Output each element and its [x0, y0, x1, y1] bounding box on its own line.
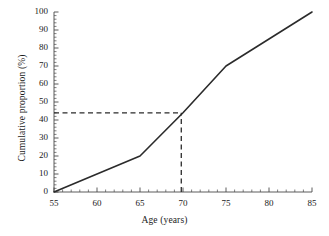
x-tick-label-70: 70 — [171, 198, 195, 208]
x-tick-label-75: 75 — [214, 198, 238, 208]
x-axis-major-ticks — [54, 188, 312, 193]
y-tick-label-100: 100 — [24, 6, 48, 16]
y-axis-title: Cumulative proportion (%) — [17, 28, 27, 188]
x-tick-label-60: 60 — [85, 198, 109, 208]
y-tick-label-90: 90 — [24, 24, 48, 34]
x-tick-label-55: 55 — [42, 198, 66, 208]
y-tick-label-10: 10 — [24, 168, 48, 178]
y-tick-label-30: 30 — [24, 132, 48, 142]
y-tick-label-80: 80 — [24, 42, 48, 52]
y-tick-label-50: 50 — [24, 96, 48, 106]
cumulative-proportion-chart: Cumulative proportion (%) Age (years) 01… — [0, 0, 329, 236]
series-line — [54, 12, 312, 192]
y-axis-major-ticks — [54, 12, 59, 192]
y-tick-label-20: 20 — [24, 150, 48, 160]
y-tick-label-0: 0 — [24, 186, 48, 196]
x-tick-label-65: 65 — [128, 198, 152, 208]
annotations-group — [54, 113, 181, 192]
x-tick-label-80: 80 — [257, 198, 281, 208]
x-axis-title: Age (years) — [0, 215, 329, 225]
y-tick-label-70: 70 — [24, 60, 48, 70]
x-tick-label-85: 85 — [300, 198, 324, 208]
axes — [54, 12, 312, 192]
y-tick-label-60: 60 — [24, 78, 48, 88]
y-tick-label-40: 40 — [24, 114, 48, 124]
data-series-group — [54, 12, 312, 192]
